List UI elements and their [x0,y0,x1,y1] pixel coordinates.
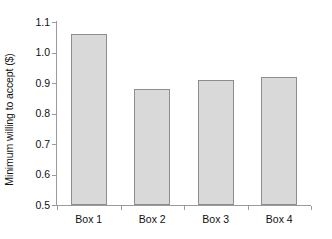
y-tick-label-text: 0.7 [26,139,50,150]
x-axis-label: Box 4 [239,213,319,225]
bar [198,80,234,205]
y-tick-mark [52,114,57,115]
y-tick-label: 0.8 [24,108,50,119]
bar-chart: Minimum willing to accept ($) 1.11.00.90… [0,0,332,239]
y-tick-mark [52,175,57,176]
x-tick-mark [57,206,58,210]
y-axis-title: Minimum willing to accept ($) [0,0,18,239]
y-tick-mark [52,83,57,84]
y-tick-label: 0.6 [24,169,50,180]
bar [261,77,297,205]
y-tick-label: 0.7 [24,139,50,150]
bar [71,34,107,205]
y-tick-mark [52,22,57,23]
y-tick-mark [52,144,57,145]
y-tick-label-text: 0.5 [26,200,50,211]
y-tick-label-text: 1.1 [26,17,50,28]
x-tick-mark [311,206,312,210]
y-tick-label: 0.9 [24,78,50,89]
y-tick-label: 1.1 [24,17,50,28]
y-tick-label-text: 0.6 [26,169,50,180]
y-tick-label-text: 1.0 [26,47,50,58]
x-tick-mark [248,206,249,210]
y-tick-label-text: 0.9 [26,78,50,89]
x-tick-mark [184,206,185,210]
bar [134,89,170,205]
x-tick-mark [121,206,122,210]
y-tick-label-text: 0.8 [26,108,50,119]
y-tick-label: 0.5 [24,200,50,211]
y-tick-label: 1.0 [24,47,50,58]
y-tick-mark [52,53,57,54]
